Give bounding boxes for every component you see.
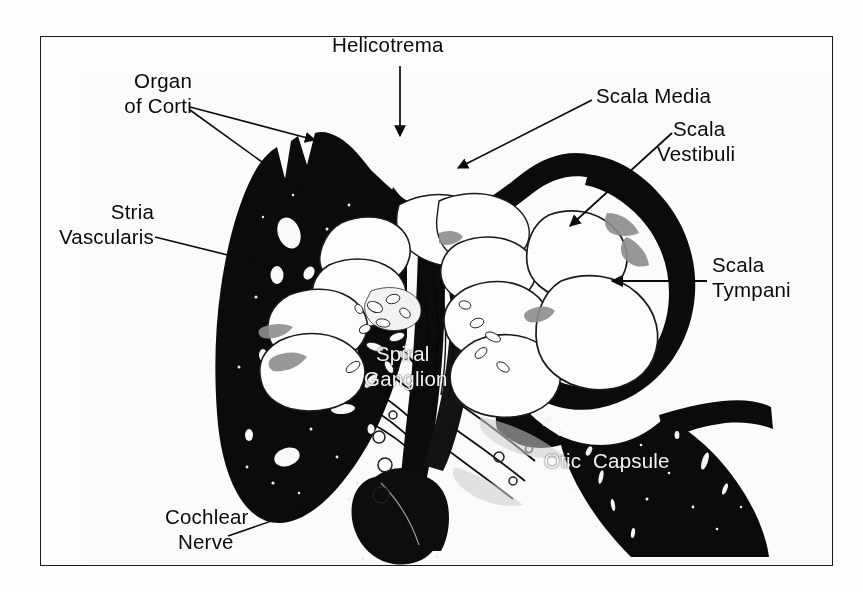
label-stria-line2: Vascularis (30, 224, 154, 249)
label-scala-tympani-line2: Tympani (712, 277, 791, 302)
figure-canvas: Helicotrema Organ of Corti Stria Vascula… (0, 0, 863, 592)
label-scala-tympani-line1: Scala (712, 252, 764, 277)
label-organ-of-corti-line1: Organ (106, 68, 192, 93)
label-organ-of-corti-line2: of Corti (82, 93, 192, 118)
label-cochlear-nerve-line2: Nerve (178, 529, 234, 554)
label-cochlear-nerve-line1: Cochlear (165, 504, 249, 529)
label-spiral-ganglion-line2: Ganglion (364, 366, 448, 391)
label-spiral-ganglion-line1: Spiral (376, 341, 430, 366)
label-scala-vestibuli-line1: Scala (673, 116, 725, 141)
label-otic-capsule: Otic Capsule (544, 448, 670, 473)
label-stria-line1: Stria (54, 199, 154, 224)
label-helicotrema: Helicotrema (332, 32, 444, 57)
label-scala-vestibuli-line2: Vestibuli (657, 141, 735, 166)
label-scala-media: Scala Media (596, 83, 711, 108)
